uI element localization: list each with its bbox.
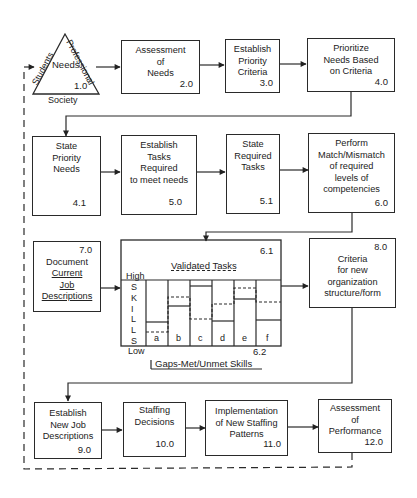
label-line: of New Staffing bbox=[206, 418, 287, 430]
node-number: 6.2 bbox=[253, 346, 266, 357]
label-line: Needs bbox=[33, 164, 100, 176]
node-5-establish-tasks[interactable]: Establish Tasks Required to meet needs 5… bbox=[121, 135, 197, 215]
label-line: Current bbox=[34, 268, 100, 280]
node-number: 4.1 bbox=[73, 197, 86, 209]
node-4-1-state-priority-needs[interactable]: State Priority Needs 4.1 bbox=[32, 136, 101, 216]
node-4-prioritize-needs[interactable]: Prioritize Needs Based on Criteria 4.0 bbox=[307, 38, 395, 92]
node-8-criteria-new-organization[interactable]: 8.0 Criteria for new organization struct… bbox=[309, 238, 396, 308]
node-7-document-current-job-descriptions[interactable]: 7.0 Document Current Job Descriptions bbox=[33, 241, 101, 312]
label-line: Descriptions bbox=[35, 431, 101, 443]
label-line: Assessment bbox=[319, 403, 391, 415]
node-number: 12.0 bbox=[365, 436, 384, 448]
high-label: High bbox=[126, 271, 145, 281]
label-line: New Job bbox=[35, 420, 101, 432]
label-line: organization bbox=[310, 277, 395, 289]
chart-title: Validated Tasks bbox=[171, 260, 237, 271]
column-label-c: c bbox=[198, 333, 203, 343]
label-line: Required bbox=[122, 163, 196, 175]
label-line: Staffing bbox=[124, 405, 185, 417]
label-line: of bbox=[319, 415, 391, 427]
skills-axis-label: S K I L L S bbox=[131, 282, 137, 347]
column-label-f: f bbox=[266, 333, 269, 343]
node-number: 6.0 bbox=[375, 197, 388, 209]
label-line: Establish bbox=[35, 408, 101, 420]
label-line: to meet needs bbox=[122, 175, 196, 187]
label-line: Document bbox=[34, 257, 100, 269]
node-number: 10.0 bbox=[156, 438, 175, 450]
column-label-d: d bbox=[220, 333, 225, 343]
node-number: 5.1 bbox=[260, 195, 273, 207]
label-line: Criteria bbox=[310, 254, 395, 266]
label-line: Priority bbox=[33, 153, 100, 165]
node-12-assessment-of-performance[interactable]: Assessment of Performance 12.0 bbox=[318, 399, 392, 453]
label-line: Assessment bbox=[122, 45, 199, 57]
label-line: Establish bbox=[122, 140, 196, 152]
node-number: 3.0 bbox=[260, 77, 273, 89]
node-11-implementation-staffing-patterns[interactable]: Implementation of New Staffing Patterns … bbox=[205, 400, 288, 456]
label-line: Needs Based bbox=[308, 55, 394, 67]
society-label: Society bbox=[48, 95, 78, 105]
label-line: Tasks bbox=[227, 162, 279, 174]
node-10-staffing-decisions[interactable]: Staffing Decisions 10.0 bbox=[123, 402, 186, 457]
label-line: Match/Mismatch bbox=[309, 150, 394, 162]
label-line: Implementation bbox=[206, 406, 287, 418]
label-line: Required bbox=[227, 151, 279, 163]
node-6-perform-match-mismatch[interactable]: Perform Match/Mismatch of required level… bbox=[308, 133, 395, 213]
label-line: structure/form bbox=[310, 288, 395, 300]
label-line: Perform bbox=[309, 138, 394, 150]
label-line: Job bbox=[34, 280, 100, 292]
label-line: Establish bbox=[226, 44, 279, 56]
label-line: levels of bbox=[309, 173, 394, 185]
current-skill-levels bbox=[146, 288, 281, 332]
label-line: of required bbox=[309, 161, 394, 173]
label-line: Prioritize bbox=[308, 43, 394, 55]
node-number: 7.0 bbox=[34, 245, 100, 257]
node-number: 5.0 bbox=[169, 196, 182, 208]
label-line: for new bbox=[310, 265, 395, 277]
node-number: 8.0 bbox=[310, 242, 395, 254]
required-skill-levels bbox=[146, 286, 281, 322]
column-label-a: a bbox=[154, 333, 159, 343]
node-number: 9.0 bbox=[78, 444, 91, 456]
node-9-establish-new-job-descriptions[interactable]: Establish New Job Descriptions 9.0 bbox=[34, 402, 102, 459]
label-line: of bbox=[122, 57, 199, 69]
column-label-b: b bbox=[176, 333, 181, 343]
column-label-e: e bbox=[242, 333, 247, 343]
node-2-assessment-of-needs[interactable]: Assessment of Needs 2.0 bbox=[121, 40, 200, 94]
label-line: State bbox=[227, 139, 279, 151]
gaps-caption: Gaps-Met/Unmet Skills bbox=[155, 358, 252, 369]
label-line: State bbox=[33, 141, 100, 153]
label-line: Decisions bbox=[124, 417, 185, 429]
label-line: Tasks bbox=[122, 152, 196, 164]
label-line: Descriptions bbox=[34, 291, 100, 303]
node-3-establish-priority-criteria[interactable]: Establish Priority Criteria 3.0 bbox=[225, 39, 280, 93]
node-number: 11.0 bbox=[263, 438, 281, 450]
node-number: 2.0 bbox=[180, 78, 193, 90]
node-number: 4.0 bbox=[375, 76, 388, 88]
low-label: Low bbox=[128, 346, 145, 356]
label-line: Priority bbox=[226, 56, 279, 68]
node-number: 6.1 bbox=[260, 245, 273, 256]
label-line: competencies bbox=[309, 184, 394, 196]
node-5-1-state-required-tasks[interactable]: State Required Tasks 5.1 bbox=[226, 134, 280, 214]
